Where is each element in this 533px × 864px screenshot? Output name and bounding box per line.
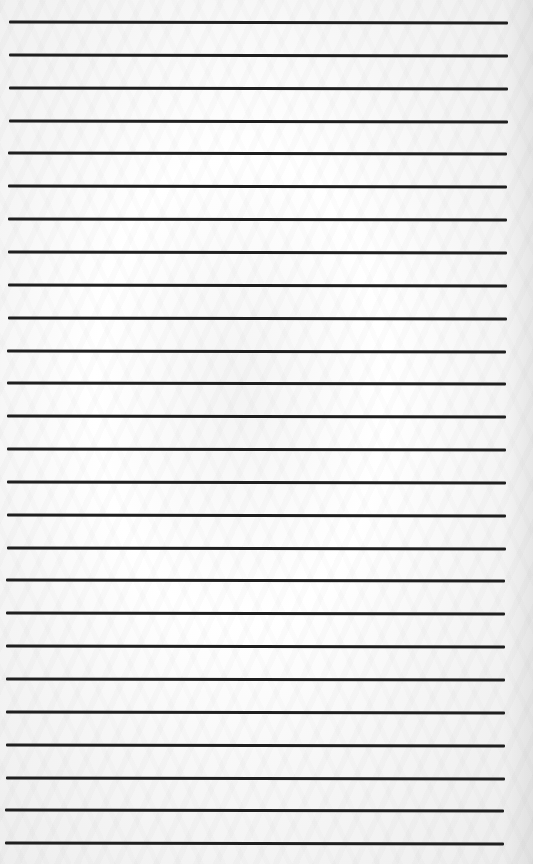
ruled-line: [7, 349, 506, 353]
ruled-line: [6, 743, 505, 747]
ruled-line: [7, 546, 506, 550]
ruled-line: [9, 86, 508, 90]
paper-edge-shadow: [503, 0, 533, 864]
ruled-line: [9, 119, 508, 123]
paper-texture: [0, 0, 533, 864]
ruled-line: [8, 316, 507, 320]
ruled-line: [6, 776, 505, 780]
